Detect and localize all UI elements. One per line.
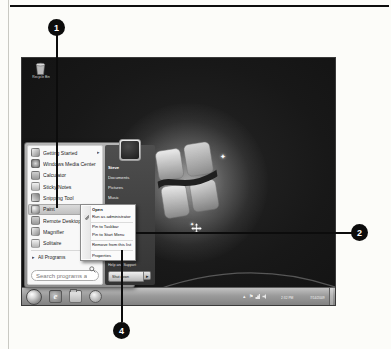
callout-line-2 [136,232,352,234]
shutdown-button[interactable]: Shut down [108,271,144,282]
start-menu-item-pictures[interactable]: Pictures [105,183,155,193]
remote-desktop-icon [31,216,40,225]
submenu-arrow-icon: ▸ [97,150,99,156]
show-desktop-button[interactable] [329,288,333,305]
windows-desktop: ✦ ✦ Recycle Bin Getting Started ▸ [22,58,335,305]
paint-icon [31,205,40,214]
page-top-rule [10,5,389,7]
windows-media-player-icon[interactable] [89,290,102,303]
callout-badge-4: 4 [113,322,130,339]
volume-icon[interactable] [262,294,267,299]
sticky-notes-icon [31,182,40,191]
recycle-bin-icon [35,62,46,75]
taskbar: e ▴ ⚑ 2:32 PM 7/14/2009 [22,287,335,305]
clock-date: 7/14/2009 [310,296,325,299]
hidden-icons-chevron-icon[interactable]: ▴ [244,294,246,299]
windows-flag-logo-icon [152,139,223,225]
callout-line-1 [56,35,58,208]
shutdown-control: Shut down ▸ [108,271,153,282]
shutdown-arrow-icon: ▸ [146,273,149,279]
context-menu-item-properties[interactable]: Properties [81,252,135,259]
start-menu-item-help-and-support[interactable]: Help and Support [105,260,155,269]
start-menu-item-calculator[interactable]: Calculator [28,170,102,181]
context-menu-separator [91,240,133,241]
magnifier-icon [31,227,40,236]
windows-explorer-icon[interactable] [69,290,82,303]
getting-started-icon [31,148,40,157]
context-menu-separator [91,222,133,223]
start-button[interactable] [26,289,42,305]
start-menu-item-user[interactable]: Steve [105,163,155,173]
recycle-bin-label: Recycle Bin [32,75,47,78]
snipping-tool-icon [31,193,40,202]
all-programs-arrow-icon: ▸ [32,255,34,261]
page-margin-rule [8,0,9,349]
user-avatar[interactable] [119,139,141,161]
system-tray: ▴ ⚑ 2:32 PM 7/14/2009 [243,288,333,305]
start-menu-item-sticky-notes[interactable]: Sticky Notes [28,181,102,192]
recycle-bin-desktop-icon[interactable]: Recycle Bin [26,62,54,81]
paint-context-menu: Open Run as administrator Pin to Taskbar… [80,204,136,261]
windows-media-center-icon [31,159,40,168]
book-page: ✦ ✦ Recycle Bin Getting Started ▸ [0,0,391,349]
start-menu-item-windows-media-center[interactable]: Windows Media Center [28,158,102,169]
context-menu-item-pin-to-taskbar[interactable]: Pin to Taskbar [81,224,135,231]
callout-badge-1: 1 [48,19,65,36]
solitaire-icon [31,239,40,248]
context-menu-item-pin-to-start-menu[interactable]: Pin to Start Menu [81,231,135,238]
start-menu-item-getting-started[interactable]: Getting Started ▸ [28,147,102,158]
context-menu-item-remove-from-this-list[interactable]: Remove from this list [81,242,135,249]
action-center-flag-icon[interactable]: ⚑ [249,294,253,299]
start-menu-item-documents[interactable]: Documents [105,173,155,183]
context-menu-separator [91,250,133,251]
network-icon[interactable] [255,294,260,299]
taskbar-clock[interactable]: 2:32 PM 7/14/2009 [271,292,325,301]
callout-line-4 [121,250,123,322]
context-menu-item-run-as-administrator[interactable]: Run as administrator [81,213,135,220]
user-picture [121,141,139,159]
callout-badge-2: 2 [351,224,368,241]
shutdown-options-arrow[interactable]: ▸ [144,271,151,280]
start-menu-item-music[interactable]: Music [105,193,155,203]
context-menu-item-open[interactable]: Open [81,206,135,213]
internet-explorer-icon[interactable]: e [49,290,62,303]
uac-shield-icon [84,214,89,220]
search-magnifier-icon [89,266,96,273]
search-box-wrap [31,264,99,282]
start-menu-item-snipping-tool[interactable]: Snipping Tool [28,192,102,203]
sparkle-icon: ✦ [220,153,226,161]
calculator-icon [31,171,40,180]
clock-time: 2:32 PM [282,296,294,299]
